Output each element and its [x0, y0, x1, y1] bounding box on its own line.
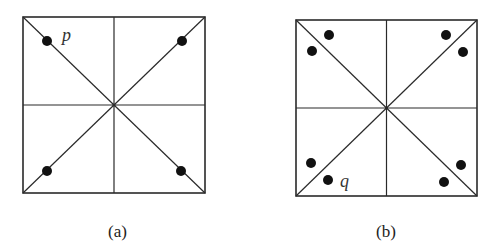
point-b-5 — [323, 175, 333, 185]
point-label-q: q — [340, 171, 349, 191]
point-a-1 — [177, 36, 187, 46]
point-b-7 — [439, 177, 449, 187]
caption-b: (b) — [376, 222, 396, 242]
center-point-b — [385, 106, 388, 109]
center-point-a — [112, 103, 115, 106]
point-b-4 — [306, 158, 316, 168]
caption-a: (a) — [108, 222, 127, 242]
diagram-canvas: pq — [0, 0, 487, 252]
point-b-0 — [324, 30, 334, 40]
point-a-2 — [42, 166, 52, 176]
point-a-0 — [42, 36, 52, 46]
point-b-3 — [458, 47, 468, 57]
point-a-3 — [176, 166, 186, 176]
point-b-2 — [441, 30, 451, 40]
point-b-6 — [456, 160, 466, 170]
point-b-1 — [307, 46, 317, 56]
point-label-p: p — [60, 25, 71, 45]
